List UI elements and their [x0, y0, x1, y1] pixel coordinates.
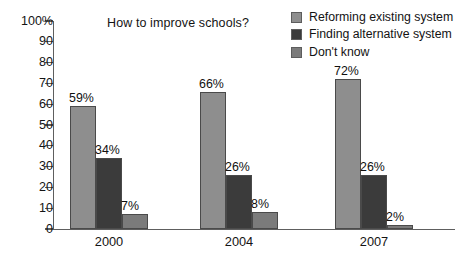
y-axis-tick-label: 90 — [9, 35, 53, 47]
bar[interactable] — [387, 225, 413, 229]
bar-value-label: 66% — [199, 78, 239, 90]
bar-value-label: 26% — [360, 161, 400, 173]
bar[interactable] — [200, 92, 226, 229]
bar-value-label: 7% — [121, 200, 161, 212]
bar-value-label: 8% — [251, 198, 291, 210]
bar-value-label: 59% — [69, 92, 109, 104]
bar-value-label: 2% — [386, 211, 426, 223]
plot-area: 59%34%7%66%26%8%72%26%2% — [54, 21, 455, 229]
y-axis-tick-label: 40 — [9, 139, 53, 151]
y-axis-tick-label: 80 — [9, 56, 53, 68]
x-axis-category-label: 2000 — [79, 235, 139, 249]
bar[interactable] — [96, 158, 122, 229]
bar[interactable] — [361, 175, 387, 229]
bar[interactable] — [70, 106, 96, 229]
y-axis-tick-label: 0 — [9, 223, 53, 235]
bar[interactable] — [226, 175, 252, 229]
y-axis-tick-label: 30 — [9, 160, 53, 172]
bar-group: 72%26%2% — [335, 21, 413, 229]
bar-group: 59%34%7% — [70, 21, 148, 229]
y-axis-tick-label: 100% — [9, 15, 53, 27]
y-axis-tick-label: 50 — [9, 119, 53, 131]
bar[interactable] — [252, 212, 278, 229]
bar-value-label: 72% — [334, 65, 374, 77]
bar-value-label: 34% — [95, 144, 135, 156]
bar-group: 66%26%8% — [200, 21, 278, 229]
y-axis-tick-label: 60 — [9, 98, 53, 110]
x-axis-category-label: 2007 — [344, 235, 404, 249]
y-axis-tick-label: 20 — [9, 181, 53, 193]
y-axis-tick-label: 70 — [9, 77, 53, 89]
bar[interactable] — [122, 214, 148, 229]
bar-value-label: 26% — [225, 161, 265, 173]
y-axis-tick-label: 10 — [9, 202, 53, 214]
bar-chart: How to improve schools? Reforming existi… — [0, 0, 464, 262]
bar[interactable] — [335, 79, 361, 229]
x-axis-category-label: 2004 — [209, 235, 269, 249]
